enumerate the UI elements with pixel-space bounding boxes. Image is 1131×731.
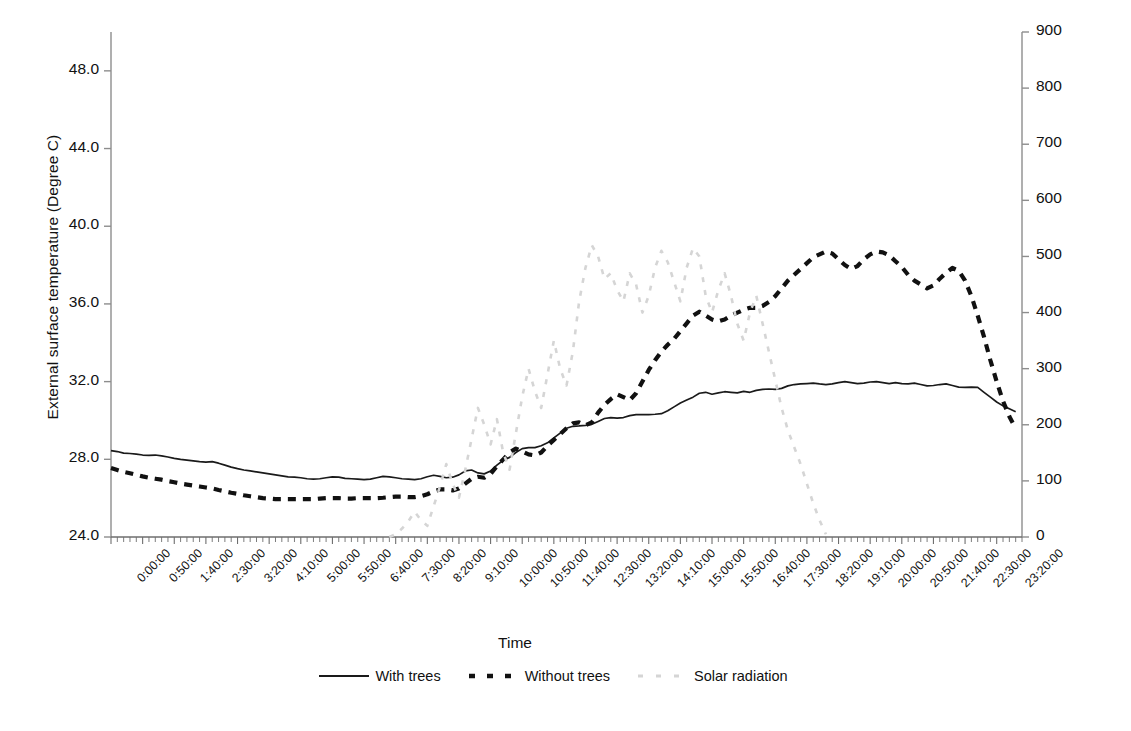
legend-label: Solar radiation [694, 668, 788, 684]
y-tick-label-left: 48.0 [39, 60, 99, 78]
y-tick-label-left: 44.0 [39, 138, 99, 156]
y-tick-label-right: 300 [1036, 358, 1062, 376]
y-tick-label-right: 600 [1036, 189, 1062, 207]
legend-label: With trees [375, 668, 440, 684]
chart-figure: External surface temperature (Degree C) … [0, 0, 1131, 731]
chart-legend: With treesWithout treesSolar radiation [0, 668, 1131, 684]
x-tick-label: 1:40:00 [197, 546, 236, 585]
y-tick-label-right: 400 [1036, 302, 1062, 320]
y-tick-label-right: 100 [1036, 470, 1062, 488]
solid-line-key [317, 670, 371, 682]
y-tick-label-left: 36.0 [39, 293, 99, 311]
x-tick-label: 3:20:00 [261, 546, 300, 585]
legend-label: Without trees [525, 668, 610, 684]
x-axis-title: Time [0, 634, 1030, 652]
x-tick-label: 0:50:00 [166, 546, 205, 585]
y-tick-label-left: 32.0 [39, 371, 99, 389]
x-tick-label: 0:00:00 [134, 546, 173, 585]
y-tick-label-right: 500 [1036, 245, 1062, 263]
x-tick-label: 5:00:00 [324, 546, 363, 585]
y-tick-label-right: 800 [1036, 77, 1062, 95]
x-tick-label: 4:10:00 [292, 546, 331, 585]
dashed-line-key [467, 670, 521, 682]
legend-item-with-trees[interactable]: With trees [317, 668, 466, 684]
y-tick-label-left: 40.0 [39, 215, 99, 233]
x-axis-tick-labels: 0:00:000:50:001:40:002:30:003:20:004:10:… [0, 540, 1131, 640]
series-line-solar-radiation [389, 245, 826, 537]
x-tick-label: 8:20:00 [450, 546, 489, 585]
y-tick-label-right: 0 [1036, 526, 1045, 544]
x-tick-label: 2:30:00 [229, 546, 268, 585]
y-tick-label-left: 28.0 [39, 448, 99, 466]
y-tick-label-right: 900 [1036, 21, 1062, 39]
x-tick-label: 5:50:00 [356, 546, 395, 585]
x-tick-label: 7:30:00 [419, 546, 458, 585]
light-dashed-line-key [636, 670, 690, 682]
y-tick-label-right: 700 [1036, 133, 1062, 151]
legend-item-without-trees[interactable]: Without trees [467, 668, 636, 684]
x-tick-label: 6:40:00 [387, 546, 426, 585]
y-tick-label-right: 200 [1036, 414, 1062, 432]
legend-item-solar-radiation[interactable]: Solar radiation [636, 668, 814, 684]
y-tick-label-left: 24.0 [39, 526, 99, 544]
